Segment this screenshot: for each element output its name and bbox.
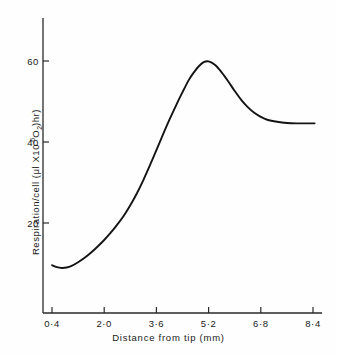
y-axis-title-prefix: Respiration/cell (μl X10 (30, 144, 41, 255)
y-axis-title-exponent: -6 (29, 138, 36, 144)
x-axis-tick-label: 5·2 (201, 318, 217, 329)
chart-plot-area (0, 0, 337, 355)
x-axis-ticks (52, 307, 313, 313)
x-axis-tick-label: 3·6 (149, 318, 165, 329)
chart-figure: 0·42·03·65·26·88·4 204060 Distance from … (0, 0, 337, 355)
x-axis-tick-label: 6·8 (253, 318, 269, 329)
y-axis-ticks (43, 61, 49, 223)
x-axis-title: Distance from tip (mm) (0, 332, 337, 343)
y-axis-title-suffix: )hr) (30, 109, 41, 126)
x-axis-tick-label: 2·0 (96, 318, 112, 329)
y-axis-title-gas: O (30, 130, 41, 138)
axes-group (43, 18, 322, 313)
y-axis-title-gas-subscript: 2 (36, 126, 43, 130)
x-axis-tick-label: 8·4 (305, 318, 321, 329)
data-series-line (52, 61, 315, 268)
x-axis-tick-label: 0·4 (44, 318, 60, 329)
y-axis-tick-label: 60 (14, 56, 39, 67)
y-axis-title: Respiration/cell (μl X10-6O2)hr) (29, 67, 43, 297)
